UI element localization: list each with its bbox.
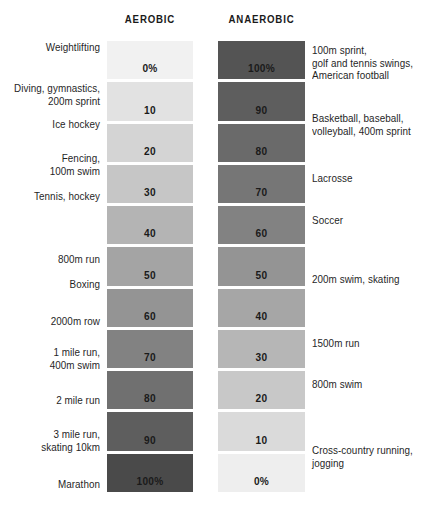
anaerobic-sport-label-line: Cross-country running, — [312, 444, 429, 457]
anaerobic-bar: 20 — [218, 371, 305, 412]
aerobic-bar-column: 0%102030405060708090100% — [107, 41, 193, 495]
aerobic-bar: 70 — [107, 330, 193, 371]
aerobic-sport-label: 2000m row — [0, 315, 100, 328]
anaerobic-bar-value: 80 — [221, 145, 301, 157]
aerobic-sport-label: Weightlifting — [0, 41, 100, 54]
anaerobic-bar-value: 60 — [221, 227, 301, 239]
anaerobic-sport-label: 100m sprint,golf and tennis swings,Ameri… — [312, 44, 429, 82]
aerobic-bar: 30 — [107, 165, 193, 206]
column-header-aerobic: AEROBIC — [110, 13, 189, 25]
aerobic-bar-value: 30 — [110, 186, 189, 198]
anaerobic-sport-label-line: 1500m run — [312, 337, 429, 350]
aerobic-sport-label-line: Ice hockey — [0, 118, 100, 131]
aerobic-anaerobic-chart: AEROBIC ANAEROBIC 0%10203040506070809010… — [0, 0, 433, 513]
aerobic-bar-value: 0% — [110, 62, 189, 74]
anaerobic-sport-label-line: 800m swim — [312, 378, 429, 391]
aerobic-bar: 50 — [107, 247, 193, 288]
anaerobic-bar-value: 10 — [221, 434, 301, 446]
aerobic-sport-label: 2 mile run — [0, 394, 100, 407]
aerobic-bar: 80 — [107, 371, 193, 412]
anaerobic-sport-label-line: jogging — [312, 457, 429, 470]
aerobic-sport-label-line: 400m swim — [0, 359, 100, 372]
anaerobic-sport-label: Lacrosse — [312, 172, 429, 185]
anaerobic-bar-value: 30 — [221, 351, 301, 363]
anaerobic-sport-label-line: Lacrosse — [312, 172, 429, 185]
aerobic-bar-value: 100% — [110, 475, 189, 487]
column-header-anaerobic: ANAEROBIC — [221, 13, 301, 25]
anaerobic-bar-value: 20 — [221, 392, 301, 404]
anaerobic-sport-label-line: American football — [312, 69, 429, 82]
anaerobic-sport-label: Basketball, baseball,volleyball, 400m sp… — [312, 112, 429, 137]
aerobic-sport-label-line: Tennis, hockey — [0, 190, 100, 203]
anaerobic-sport-label-line: volleyball, 400m sprint — [312, 125, 429, 138]
aerobic-sport-label: 3 mile run,skating 10km — [0, 428, 100, 453]
aerobic-sport-label-line: 3 mile run, — [0, 428, 100, 441]
aerobic-bar-value: 50 — [110, 269, 189, 281]
anaerobic-sport-label: Soccer — [312, 214, 429, 227]
anaerobic-sport-label-line: 100m sprint, — [312, 44, 429, 57]
anaerobic-bar-value: 70 — [221, 186, 301, 198]
anaerobic-bar: 70 — [218, 165, 305, 206]
anaerobic-bar-value: 0% — [221, 475, 301, 487]
anaerobic-bar: 100% — [218, 41, 305, 82]
anaerobic-sport-label-line: 200m swim, skating — [312, 273, 429, 286]
anaerobic-sport-label-line: golf and tennis swings, — [312, 57, 429, 70]
anaerobic-bar: 60 — [218, 206, 305, 247]
anaerobic-bar: 30 — [218, 330, 305, 371]
aerobic-sport-label: 1 mile run,400m swim — [0, 346, 100, 371]
aerobic-sport-label: Marathon — [0, 478, 100, 491]
aerobic-sport-label-line: skating 10km — [0, 441, 100, 454]
aerobic-bar: 10 — [107, 82, 193, 123]
aerobic-bar-value: 40 — [110, 227, 189, 239]
anaerobic-bar: 50 — [218, 247, 305, 288]
aerobic-sport-label: Diving, gymnastics,200m sprint — [0, 82, 100, 107]
aerobic-sport-label-line: 800m run — [0, 253, 100, 266]
anaerobic-bar-value: 100% — [221, 62, 301, 74]
aerobic-bar-value: 60 — [110, 310, 189, 322]
anaerobic-bar: 40 — [218, 289, 305, 330]
aerobic-sport-label: Ice hockey — [0, 118, 100, 131]
aerobic-sport-label-line: Fencing, — [0, 152, 100, 165]
anaerobic-bar: 10 — [218, 412, 305, 453]
anaerobic-bar-value: 40 — [221, 310, 301, 322]
aerobic-bar: 20 — [107, 124, 193, 165]
aerobic-bar-value: 80 — [110, 392, 189, 404]
aerobic-bar: 100% — [107, 454, 193, 495]
aerobic-bar-value: 20 — [110, 145, 189, 157]
aerobic-sport-label-line: 2000m row — [0, 315, 100, 328]
aerobic-sport-label: Boxing — [0, 278, 100, 291]
aerobic-bar: 90 — [107, 412, 193, 453]
anaerobic-sport-label-line: Soccer — [312, 214, 429, 227]
anaerobic-bar: 90 — [218, 82, 305, 123]
aerobic-sport-label: 800m run — [0, 253, 100, 266]
aerobic-sport-label-line: Boxing — [0, 278, 100, 291]
anaerobic-bar: 0% — [218, 454, 305, 495]
anaerobic-sport-label: Cross-country running,jogging — [312, 444, 429, 469]
aerobic-sport-label-line: 200m sprint — [0, 95, 100, 108]
anaerobic-sport-label: 1500m run — [312, 337, 429, 350]
aerobic-sport-label: Tennis, hockey — [0, 190, 100, 203]
anaerobic-sport-label-line: Basketball, baseball, — [312, 112, 429, 125]
anaerobic-sport-label: 800m swim — [312, 378, 429, 391]
anaerobic-sport-label: 200m swim, skating — [312, 273, 429, 286]
aerobic-sport-label-line: 100m swim — [0, 165, 100, 178]
aerobic-sport-label-line: 2 mile run — [0, 394, 100, 407]
anaerobic-bar: 80 — [218, 124, 305, 165]
anaerobic-bar-column: 100%9080706050403020100% — [218, 41, 305, 495]
aerobic-bar-value: 10 — [110, 104, 189, 116]
aerobic-bar: 40 — [107, 206, 193, 247]
anaerobic-bar-value: 90 — [221, 104, 301, 116]
anaerobic-bar-value: 50 — [221, 269, 301, 281]
aerobic-sport-label-line: Marathon — [0, 478, 100, 491]
aerobic-bar: 60 — [107, 289, 193, 330]
aerobic-sport-label-line: Diving, gymnastics, — [0, 82, 100, 95]
aerobic-sport-label: Fencing,100m swim — [0, 152, 100, 177]
aerobic-bar-value: 90 — [110, 434, 189, 446]
aerobic-bar: 0% — [107, 41, 193, 82]
aerobic-sport-label-line: 1 mile run, — [0, 346, 100, 359]
aerobic-bar-value: 70 — [110, 351, 189, 363]
aerobic-sport-label-line: Weightlifting — [0, 41, 100, 54]
